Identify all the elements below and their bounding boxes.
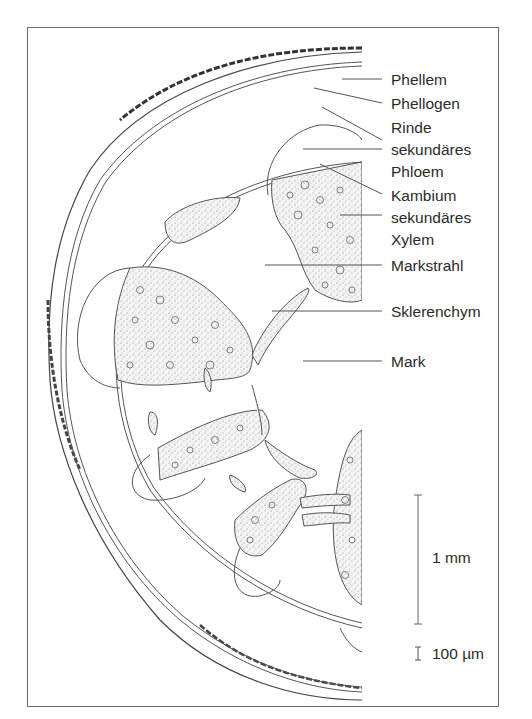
xylem-sectors (114, 162, 362, 605)
label-rinde: Rinde (391, 119, 432, 137)
label-mark: Mark (391, 353, 425, 371)
scale-bar-1mm (414, 495, 422, 624)
label-sekundaeres-xylem-line2: Xylem (391, 231, 434, 249)
label-sekundaeres-xylem-line1: sekundäres (391, 209, 471, 227)
label-markstrahl: Markstrahl (391, 257, 463, 275)
label-sklerenchym: Sklerenchym (391, 303, 481, 321)
scale-label-1mm: 1 mm (432, 549, 471, 567)
label-sekundaeres-phloem-line1: sekundäres (391, 141, 471, 159)
label-sekundaeres-phloem-line2: Phloem (391, 163, 444, 181)
label-phellem: Phellem (391, 71, 447, 89)
scale-bar-100um (415, 647, 421, 660)
label-phellogen: Phellogen (391, 95, 460, 113)
label-kambium: Kambium (391, 187, 456, 205)
scale-label-100um: 100 µm (432, 645, 484, 663)
